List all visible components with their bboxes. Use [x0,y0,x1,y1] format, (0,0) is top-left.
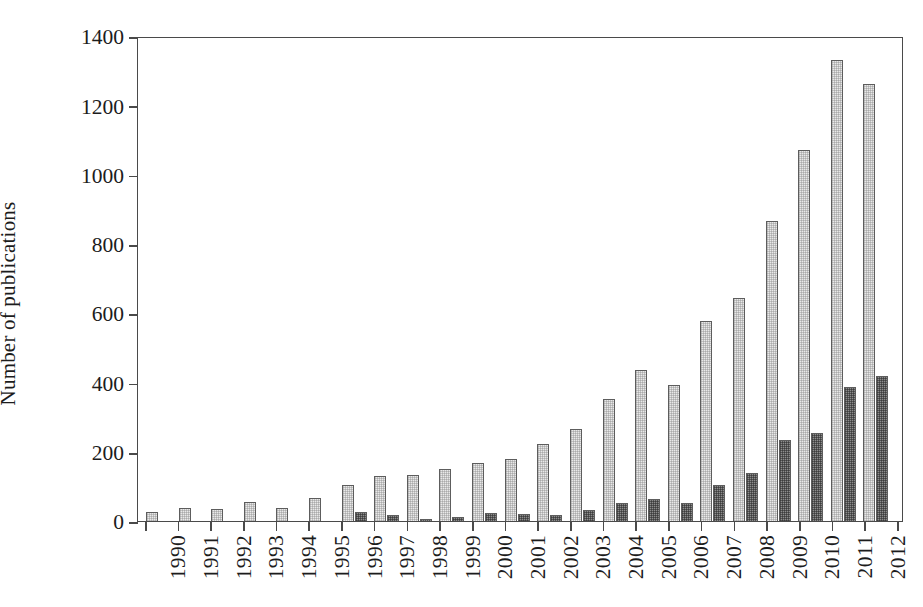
y-tick-label: 600 [92,304,129,326]
bar-dark-series-1998 [420,519,432,521]
bar-dark-series-1997 [387,515,399,521]
x-tick-mark [799,522,801,531]
y-tick-label: 1000 [81,166,129,188]
bar-group [635,38,668,521]
bar-group [505,38,538,521]
y-tick-mark [129,37,138,39]
bar-group [374,38,407,521]
bar-group [407,38,440,521]
y-tick-mark [129,176,138,178]
x-tick-mark [864,522,866,531]
bar-group [603,38,636,521]
bar-light-series-1992 [211,509,223,521]
bar-light-series-2002 [537,444,549,521]
bar-group [472,38,505,521]
bar-chart-figure: Number of publications 02004006008001000… [0,0,923,607]
x-tick-label: 1994 [299,535,321,579]
x-tick-label: 2012 [888,535,910,579]
x-tick-label: 2000 [495,535,517,579]
x-tick-mark [210,522,212,531]
x-tick-mark [407,522,409,531]
x-tick-mark [276,522,278,531]
bar-dark-series-1999 [452,517,464,522]
bar-group [700,38,733,521]
y-axis-title: Number of publications [0,0,56,607]
x-tick-mark [570,522,572,531]
plot-area: 0200400600800100012001400 [137,37,903,522]
x-tick-label: 2009 [790,535,812,579]
bar-light-series-1991 [179,508,191,521]
bar-light-series-2000 [472,463,484,521]
x-tick-mark [308,522,310,531]
x-tick-mark [897,522,899,531]
bar-dark-series-2009 [779,440,791,521]
x-tick-label: 2011 [855,535,877,578]
x-tick-label: 1999 [463,535,485,579]
x-tick-label: 2005 [659,535,681,579]
x-tick-mark [178,522,180,531]
bar-group [146,38,179,521]
bar-dark-series-1996 [355,512,367,521]
bar-group [766,38,799,521]
y-tick-mark [129,384,138,386]
x-tick-label: 1997 [397,535,419,579]
x-tick-mark [145,522,147,531]
y-tick-mark [129,106,138,108]
bar-group [342,38,375,521]
bar-light-series-2003 [570,429,582,521]
x-tick-label: 1991 [201,535,223,579]
x-tick-mark [374,522,376,531]
bar-light-series-2012 [863,84,875,521]
x-tick-label: 2003 [593,535,615,579]
x-tick-label: 1995 [332,535,354,579]
y-tick-mark [129,453,138,455]
bar-light-series-2006 [668,385,680,521]
bar-group [570,38,603,521]
x-tick-mark [734,522,736,531]
bar-dark-series-2007 [713,485,725,521]
x-tick-mark [668,522,670,531]
y-tick-label: 1400 [81,27,129,49]
x-tick-mark [439,522,441,531]
bar-light-series-2011 [831,60,843,521]
y-tick-mark [129,314,138,316]
bar-light-series-1990 [146,512,158,521]
bar-light-series-1996 [342,485,354,521]
bar-dark-series-2000 [485,513,497,521]
bar-group [211,38,244,521]
x-tick-label: 1996 [365,535,387,579]
x-tick-label: 1998 [430,535,452,579]
bar-light-series-2004 [603,399,615,521]
bar-light-series-1999 [439,469,451,521]
bar-light-series-1994 [276,508,288,521]
bar-dark-series-2012 [876,376,888,521]
bar-light-series-1995 [309,498,321,521]
bar-light-series-1997 [374,476,386,521]
bar-dark-series-2010 [811,433,823,521]
x-axis: 1990199119921993199419951996199719981999… [137,522,903,607]
x-tick-label: 2007 [724,535,746,579]
x-tick-mark [603,522,605,531]
x-tick-mark [341,522,343,531]
bar-group [733,38,766,521]
bar-light-series-2008 [733,298,745,521]
bar-dark-series-2004 [616,503,628,521]
bar-light-series-2001 [505,459,517,521]
bar-group [863,38,896,521]
x-tick-label: 2004 [626,535,648,579]
x-tick-mark [505,522,507,531]
bar-light-series-1993 [244,502,256,521]
x-tick-mark [766,522,768,531]
bar-dark-series-2003 [583,510,595,521]
bar-group [831,38,864,521]
x-tick-label: 2008 [757,535,779,579]
x-tick-label: 2001 [528,535,550,579]
x-tick-mark [635,522,637,531]
bar-group [537,38,570,521]
y-tick-label: 0 [113,512,129,534]
bar-dark-series-2002 [550,515,562,521]
y-tick-label: 200 [92,443,129,465]
bar-dark-series-2011 [844,387,856,521]
y-tick-label: 800 [92,235,129,257]
bar-light-series-2005 [635,370,647,521]
